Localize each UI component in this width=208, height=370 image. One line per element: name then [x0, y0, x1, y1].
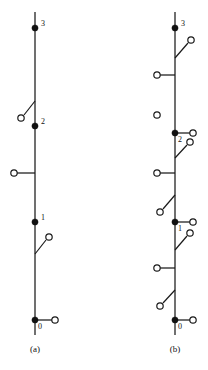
node-1-dot-icon[interactable] — [32, 219, 38, 225]
stub-left-mid-terminal-icon[interactable] — [11, 170, 17, 176]
stub-left-upper-terminal-icon[interactable] — [154, 72, 160, 78]
switch-below-node-3-arm[interactable] — [175, 43, 188, 58]
node-2-label: 2 — [178, 135, 182, 144]
switch-above-node-0-arm[interactable] — [163, 290, 175, 303]
node-2-label: 2 — [41, 117, 45, 126]
switch-above-node-2-terminal-icon[interactable] — [18, 115, 24, 121]
panel-b-caption: (b) — [154, 344, 196, 354]
node-3-label: 3 — [41, 19, 45, 28]
switch-below-node-2-terminal-icon[interactable] — [187, 139, 193, 145]
switch-above-node-1-arm[interactable] — [163, 195, 175, 209]
stub-left-lower-terminal-icon[interactable] — [154, 265, 160, 271]
circuit-diagram-canvas: 3210 3210 — [0, 0, 208, 370]
switch-below-node-1-arm[interactable] — [175, 236, 187, 250]
node-2-dot-icon[interactable] — [32, 123, 38, 129]
node-1-label: 1 — [41, 213, 45, 222]
figure-root: 3210 3210 (a) (b) — [0, 0, 208, 370]
switch-below-node-1-arm[interactable] — [35, 240, 46, 254]
stub-left-mid-terminal-icon[interactable] — [154, 170, 160, 176]
node-0-label: 0 — [38, 322, 42, 331]
panel-b-group: 3210 — [154, 12, 196, 335]
switch-below-node-1-terminal-icon[interactable] — [187, 230, 193, 236]
panel-a-caption: (a) — [14, 344, 56, 354]
switch-above-node-2-arm[interactable] — [24, 101, 35, 115]
switch-below-node-3-terminal-icon[interactable] — [188, 37, 194, 43]
node-3-dot-icon[interactable] — [172, 25, 178, 31]
switch-above-node-1-terminal-icon[interactable] — [157, 209, 163, 215]
isolated-terminal-upper-left-icon[interactable] — [154, 112, 160, 118]
stub-right-node-0-terminal-icon[interactable] — [52, 317, 58, 323]
stub-right-node-2-terminal-icon[interactable] — [190, 130, 196, 136]
node-1-label: 1 — [178, 224, 182, 233]
switch-above-node-0-terminal-icon[interactable] — [157, 303, 163, 309]
node-3-label: 3 — [181, 19, 185, 28]
node-0-label: 0 — [178, 322, 182, 331]
panel-a-group: 3210 — [11, 12, 58, 335]
switch-below-node-1-terminal-icon[interactable] — [46, 234, 52, 240]
node-3-dot-icon[interactable] — [32, 25, 38, 31]
stub-right-node-0-terminal-icon[interactable] — [190, 317, 196, 323]
switch-below-node-2-arm[interactable] — [175, 145, 187, 158]
stub-right-node-1-terminal-icon[interactable] — [190, 219, 196, 225]
